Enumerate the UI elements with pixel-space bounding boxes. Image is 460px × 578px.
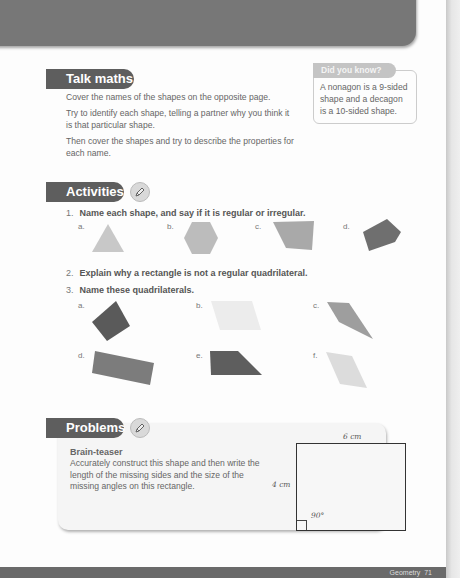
did-you-know-box: A nonagon is a 9-sided shape and a decag…	[313, 70, 417, 124]
q3-label-d: d.	[78, 351, 85, 360]
footer-section: Geometry	[390, 569, 421, 576]
q3-label-c: c.	[313, 301, 319, 310]
shape-triangle	[90, 222, 126, 254]
question-2: 2.Explain why a rectangle is not a regul…	[66, 268, 308, 278]
pencil-icon	[130, 418, 150, 438]
shape-kite	[326, 300, 374, 340]
q3-label-a: a.	[78, 301, 85, 310]
q1-label-c: c.	[255, 222, 261, 231]
question-3: 3.Name these quadrilaterals.	[66, 285, 194, 295]
rectangle-angle-label: 90°	[311, 511, 324, 520]
question-number: 1.	[66, 208, 74, 218]
question-number: 3.	[66, 285, 74, 295]
shape-parallelogram	[210, 300, 262, 332]
shape-rectangle	[91, 350, 155, 386]
q3-label-f: f.	[313, 351, 317, 360]
talk-maths-heading: Talk maths	[46, 69, 134, 89]
shape-pentagon	[361, 218, 403, 254]
talk-maths-paragraph-1: Cover the names of the shapes on the opp…	[66, 91, 296, 103]
talk-maths-paragraph-2: Try to identify each shape, telling a pa…	[66, 107, 296, 131]
shape-rhombus	[325, 350, 369, 390]
did-you-know-heading: Did you know?	[313, 63, 396, 78]
footer-section-page: Geometry 71	[390, 567, 432, 578]
talk-maths-paragraph-3: Then cover the shapes and try to describ…	[66, 135, 296, 159]
brain-teaser-title: Brain-teaser	[70, 447, 123, 457]
rectangle-top-label: 6 cm	[343, 432, 361, 441]
shape-irregular-quadrilateral	[272, 220, 316, 252]
shape-hexagon	[183, 220, 219, 256]
question-1: 1.Name each shape, and say if it is regu…	[66, 208, 306, 218]
page-edge	[446, 0, 460, 578]
pencil-icon	[130, 182, 150, 202]
top-banner	[0, 0, 416, 46]
q1-label-d: d.	[343, 222, 350, 231]
rectangle-left-label: 4 cm	[272, 480, 290, 489]
question-number: 2.	[66, 268, 74, 278]
q3-label-b: b.	[196, 301, 203, 310]
question-text: Name each shape, and say if it is regula…	[80, 208, 306, 218]
shape-trapezium	[209, 350, 263, 376]
q1-label-a: a.	[78, 222, 85, 231]
question-text: Explain why a rectangle is not a regular…	[80, 268, 308, 278]
page-number: 71	[424, 569, 432, 576]
shape-square	[91, 300, 131, 342]
right-angle-marker	[297, 520, 307, 530]
page-footer: Geometry 71	[0, 567, 446, 578]
did-you-know-text: A nonagon is a 9-sided shape and a decag…	[320, 82, 407, 116]
question-text: Name these quadrilaterals.	[80, 285, 195, 295]
q1-label-b: b.	[167, 222, 174, 231]
problems-heading: Problems	[46, 418, 124, 438]
activities-heading: Activities	[46, 182, 124, 202]
q3-label-e: e.	[196, 351, 203, 360]
brain-teaser-text: Accurately construct this shape and then…	[70, 458, 260, 493]
